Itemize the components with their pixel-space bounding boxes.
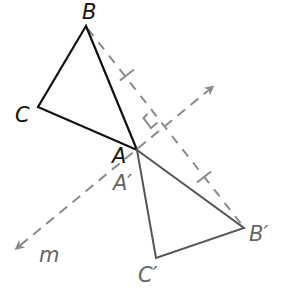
label-b-prime: B′ <box>249 222 268 246</box>
reflection-diagram: B C A A′ B′ C′ m <box>0 0 290 307</box>
triangle-abc <box>38 26 137 150</box>
label-m: m <box>39 243 59 267</box>
triangle-a-prime-b-prime-c-prime <box>137 150 244 258</box>
label-a: A <box>110 144 126 168</box>
tick-mark-lower <box>197 172 211 183</box>
label-c: C <box>15 103 30 127</box>
label-a-prime: A′ <box>111 171 132 195</box>
label-b: B <box>82 0 96 24</box>
label-c-prime: C′ <box>138 263 158 287</box>
segment-b-b-prime <box>88 29 242 225</box>
